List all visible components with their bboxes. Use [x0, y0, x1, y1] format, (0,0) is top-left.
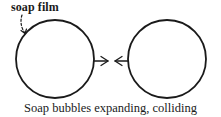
diagram-caption: Soap bubbles expanding, colliding: [0, 101, 221, 116]
soap-film-label: soap film: [11, 0, 59, 15]
arrow-left-icon: [115, 57, 128, 66]
arrow-right-icon: [94, 57, 108, 66]
diagram-svg: [0, 0, 221, 117]
right-bubble: [128, 20, 206, 98]
dashed-pointer-arrow-icon: [21, 15, 27, 34]
diagram-canvas: soap film Soap bubbles expanding, collid…: [0, 0, 221, 117]
left-bubble: [16, 20, 94, 98]
